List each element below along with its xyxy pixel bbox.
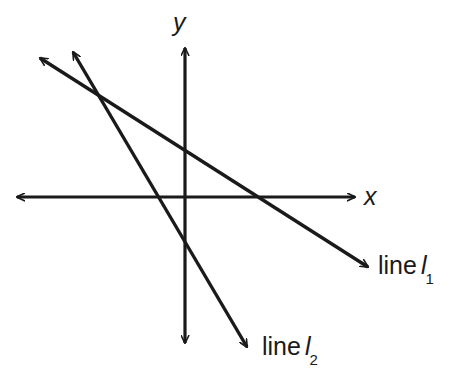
line-l1-label: linel1: [378, 253, 435, 282]
line-l1-label-subscript: 1: [425, 270, 433, 287]
figure-canvas: [0, 0, 472, 388]
y-axis-label: y: [173, 10, 186, 35]
coordinate-plane-figure: y x linel1 linel2: [0, 0, 472, 388]
line-l2-stroke: [73, 52, 247, 347]
line-l1-stroke: [40, 58, 368, 267]
line-l2-label-word: line: [262, 332, 301, 360]
line-l1-label-word: line: [378, 251, 417, 279]
x-axis-label: x: [364, 184, 377, 209]
line-l2-label-subscript: 2: [309, 351, 317, 368]
line-l2-label: linel2: [262, 334, 319, 363]
